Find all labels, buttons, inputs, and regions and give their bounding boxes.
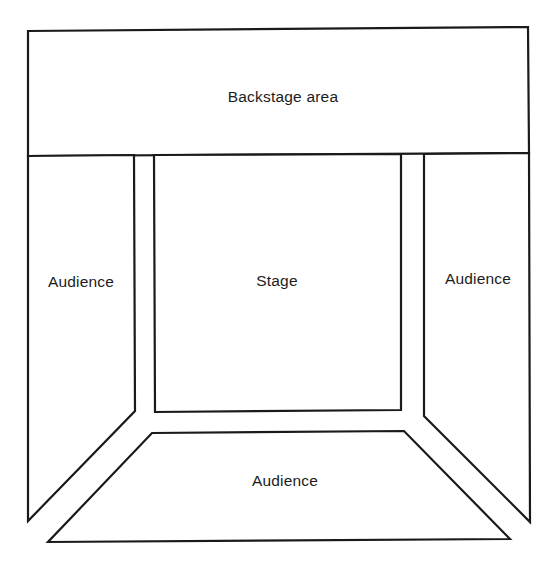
stage-layout-diagram: Backstage area Audience Stage Audience A… bbox=[0, 0, 555, 567]
audience-front-label: Audience bbox=[252, 472, 318, 490]
stage-label: Stage bbox=[256, 272, 298, 290]
audience-left-label: Audience bbox=[48, 273, 114, 291]
audience-right-label: Audience bbox=[445, 270, 511, 288]
backstage-area-label: Backstage area bbox=[228, 88, 339, 106]
